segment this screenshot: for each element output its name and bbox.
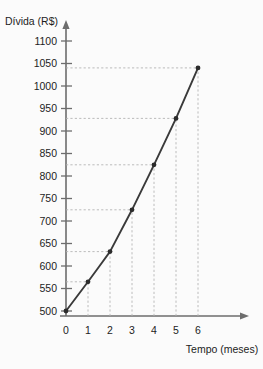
y-axis-arrow-icon [62,20,69,29]
x-tick-label-2: 2 [107,324,113,336]
chart-container: 500 550 600 650 700 750 800 850 900 950 … [0,0,263,369]
x-tick-label-4: 4 [151,324,157,336]
data-point-6 [196,66,201,71]
x-tick-label-0: 0 [63,324,69,336]
y-tick-label-550: 550 [39,282,57,294]
x-axis-arrow-icon [240,312,249,319]
x-tick-labels: 0 1 2 3 4 5 6 [63,324,201,336]
axes-group [60,20,249,320]
y-tick-labels: 500 550 600 650 700 750 800 850 900 950 … [34,35,58,317]
y-tick-label-950: 950 [39,102,57,114]
y-tick-label-500: 500 [39,305,57,317]
x-tick-label-1: 1 [85,324,91,336]
x-tick-label-6: 6 [195,324,201,336]
y-tick-label-1050: 1050 [34,57,58,69]
y-tick-label-600: 600 [39,260,57,272]
x-axis-title: Tempo (meses) [186,343,258,355]
y-tick-label-650: 650 [39,237,57,249]
data-point-2 [108,249,113,254]
x-tick-label-5: 5 [173,324,179,336]
x-tick-label-3: 3 [129,324,135,336]
debt-vs-time-line-chart: 500 550 600 650 700 750 800 850 900 950 … [0,0,263,369]
y-tick-label-1100: 1100 [34,35,57,47]
y-tick-label-700: 700 [39,215,57,227]
y-tick-label-1000: 1000 [34,80,58,92]
data-point-0 [64,309,69,314]
y-tick-label-850: 850 [39,147,57,159]
y-axis-title: Dívida (R$) [5,15,58,27]
y-tick-label-750: 750 [39,192,57,204]
y-tick-label-900: 900 [39,125,57,137]
data-point-1 [86,279,91,284]
y-tick-label-800: 800 [39,170,57,182]
data-point-5 [174,116,179,121]
data-point-4 [152,162,157,167]
data-point-3 [130,207,135,212]
